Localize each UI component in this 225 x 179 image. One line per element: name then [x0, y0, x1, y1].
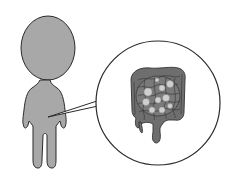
gas-bubble — [163, 95, 170, 102]
gas-bubble — [149, 107, 155, 113]
gas-bubble — [144, 88, 152, 96]
torso — [23, 80, 66, 168]
gas-bubble — [159, 85, 165, 91]
illustration — [0, 0, 225, 179]
gas-bubble — [167, 81, 174, 88]
gas-bubble — [155, 78, 159, 82]
gas-bubble — [168, 104, 173, 109]
gas-bubble — [143, 99, 150, 106]
head — [21, 16, 75, 80]
human-figure — [21, 16, 75, 168]
gas-bubble — [159, 107, 165, 113]
gas-bubble — [155, 97, 161, 103]
